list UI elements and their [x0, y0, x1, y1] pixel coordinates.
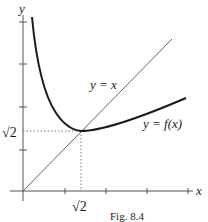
line-y-equals-x	[23, 39, 172, 191]
curve-f-of-x	[32, 17, 186, 131]
line-label: y = x	[88, 77, 117, 92]
x-axis	[10, 188, 193, 194]
figure: y x y = x y = f(x) √2 √2 Fig. 8.4	[0, 0, 208, 222]
x-axis-label: x	[195, 183, 202, 198]
y-axis-label: y	[17, 1, 25, 16]
sqrt2-x-label: √2	[72, 199, 87, 214]
y-axis	[19, 15, 27, 201]
curve-label: y = f(x)	[141, 116, 182, 131]
sqrt2-y-label: √2	[2, 125, 17, 140]
figure-caption: Fig. 8.4	[110, 210, 144, 222]
